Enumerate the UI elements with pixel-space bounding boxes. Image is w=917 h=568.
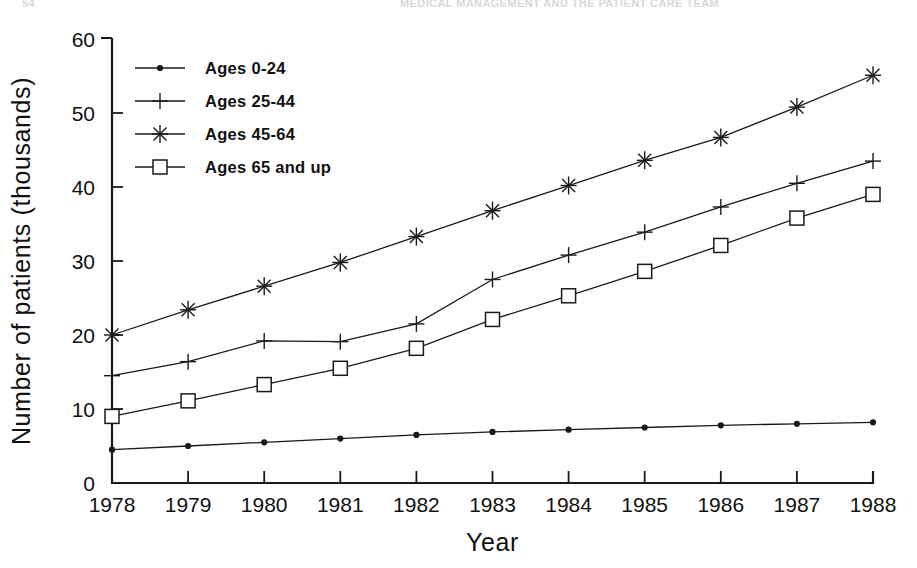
y-tick-label: 0	[83, 472, 95, 495]
x-tick-label: 1985	[621, 493, 668, 516]
marker-dot	[718, 422, 724, 428]
series-line	[112, 161, 873, 376]
marker-square	[562, 289, 576, 303]
y-tick-label: 10	[72, 398, 95, 421]
marker-dot	[337, 436, 343, 442]
data-point	[413, 432, 419, 438]
data-point	[485, 272, 501, 288]
marker-square	[714, 238, 728, 252]
x-tick-label: 1981	[317, 493, 364, 516]
marker-dot	[566, 427, 572, 433]
data-point	[408, 316, 424, 332]
x-tick-label: 1982	[393, 493, 440, 516]
data-point	[408, 228, 424, 246]
data-point	[866, 187, 880, 201]
data-point	[333, 361, 347, 375]
marker-square	[409, 341, 423, 355]
marker-square	[790, 211, 804, 225]
marker-dot	[794, 421, 800, 427]
data-point	[637, 151, 653, 169]
figure-container: 54 MEDICAL MANAGEMENT AND THE PATIENT CA…	[0, 0, 917, 568]
marker-square	[333, 361, 347, 375]
series-1	[109, 419, 876, 453]
data-point	[485, 202, 501, 220]
data-point	[185, 443, 191, 449]
marker-dot	[489, 429, 495, 435]
data-point	[104, 326, 120, 344]
marker-dot	[109, 447, 115, 453]
marker-dot	[261, 439, 267, 445]
legend-label: Ages 45-64	[205, 125, 296, 143]
data-point	[261, 439, 267, 445]
data-point	[713, 199, 729, 215]
data-point	[180, 301, 196, 319]
data-point	[332, 253, 348, 271]
legend-item-2: Ages 25-44	[135, 92, 296, 110]
legend-marker	[157, 65, 163, 71]
data-point	[105, 409, 119, 423]
data-point	[865, 153, 881, 169]
data-point	[181, 394, 195, 408]
marker-dot	[642, 424, 648, 430]
marker-square	[638, 264, 652, 278]
y-tick-label: 30	[72, 250, 95, 273]
data-point	[180, 354, 196, 370]
legend-marker	[152, 125, 168, 143]
legend-label: Ages 25-44	[205, 92, 296, 110]
x-tick-label: 1980	[241, 493, 288, 516]
x-tick-label: 1987	[774, 493, 821, 516]
data-point	[789, 175, 805, 191]
data-point	[104, 368, 120, 384]
data-point	[486, 312, 500, 326]
x-tick-label: 1983	[469, 493, 516, 516]
data-point	[865, 66, 881, 84]
data-point	[718, 422, 724, 428]
legend-label: Ages 0-24	[205, 59, 286, 77]
x-tick-label: 1984	[545, 493, 592, 516]
legend-marker	[153, 160, 167, 174]
marker-square	[153, 160, 167, 174]
data-point	[256, 333, 272, 349]
legend-layer: Ages 0-24Ages 25-44Ages 45-64Ages 65 and…	[135, 59, 331, 176]
marker-square	[105, 409, 119, 423]
data-point	[789, 98, 805, 116]
y-tick-label: 60	[72, 28, 95, 51]
data-point	[332, 334, 348, 350]
data-point	[257, 378, 271, 392]
marker-dot	[870, 419, 876, 425]
series-line	[112, 194, 873, 416]
data-point	[637, 224, 653, 240]
data-point	[256, 277, 272, 295]
data-point	[109, 447, 115, 453]
series-line	[112, 422, 873, 449]
data-point	[566, 427, 572, 433]
y-tick-label: 20	[72, 324, 95, 347]
data-point	[642, 424, 648, 430]
x-tick-label: 1979	[165, 493, 212, 516]
data-point	[489, 429, 495, 435]
legend-item-1: Ages 0-24	[135, 59, 286, 77]
x-tick-label: 1988	[850, 493, 897, 516]
data-point	[409, 341, 423, 355]
x-tick-label: 1986	[697, 493, 744, 516]
data-point	[562, 289, 576, 303]
marker-square	[181, 394, 195, 408]
series-4	[105, 187, 880, 423]
y-axis-title: Number of patients (thousands)	[7, 77, 35, 445]
data-point	[561, 177, 577, 195]
marker-dot	[185, 443, 191, 449]
data-point	[337, 436, 343, 442]
data-point	[561, 247, 577, 263]
series-2	[104, 153, 881, 384]
legend-item-3: Ages 45-64	[135, 125, 296, 143]
data-point	[714, 238, 728, 252]
data-point	[870, 419, 876, 425]
marker-dot	[157, 65, 163, 71]
marker-dot	[413, 432, 419, 438]
line-chart: Ages 0-24Ages 25-44Ages 45-64Ages 65 and…	[0, 0, 917, 568]
x-tick-label: 1978	[89, 493, 136, 516]
legend-item-4: Ages 65 and up	[135, 158, 331, 176]
legend-marker	[152, 93, 168, 109]
marker-square	[486, 312, 500, 326]
labels-layer: 0102030405060197819791980198119821983198…	[7, 28, 896, 556]
